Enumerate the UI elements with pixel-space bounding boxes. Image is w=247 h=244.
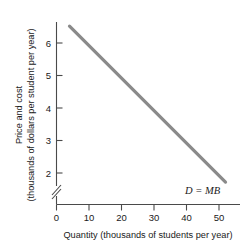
y-tick-label-6: 6: [46, 38, 51, 49]
x-tick-label-50: 50: [214, 212, 225, 223]
x-tick-label-30: 30: [149, 212, 160, 223]
x-tick-label-20: 20: [116, 212, 127, 223]
y-axis-title-line2: (thousands of dollars per student per ye…: [26, 28, 36, 201]
demand-curve: [70, 26, 226, 182]
chart-figure: 6 5 4 3 2 0 10 20 30 40 50 Quantity (tho…: [0, 0, 247, 244]
y-tick-label-3: 3: [46, 135, 51, 146]
y-axis-title-line1: Price and cost: [14, 85, 24, 144]
demand-curve-label: D = MB: [184, 185, 221, 196]
x-tick-label-0: 0: [54, 212, 59, 223]
x-tick-label-10: 10: [84, 212, 95, 223]
y-tick-label-2: 2: [46, 168, 51, 179]
y-tick-label-4: 4: [46, 103, 51, 114]
y-tick-label-5: 5: [46, 70, 51, 81]
x-axis-title: Quantity (thousands of students per year…: [63, 230, 232, 240]
chart-plot-area: 6 5 4 3 2 0 10 20 30 40 50 Quantity (tho…: [0, 0, 247, 244]
x-tick-label-40: 40: [181, 212, 192, 223]
